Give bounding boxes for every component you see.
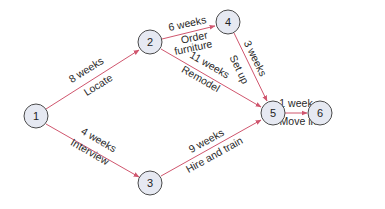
node-2-label: 2 [147,36,153,48]
node-5: 5 [261,101,285,125]
node-3: 3 [138,171,162,195]
node-2: 2 [138,30,162,54]
node-1-label: 1 [33,110,39,122]
network-diagram: 8 weeks Locate 4 weeks Interview 6 weeks… [0,0,385,209]
node-6: 6 [308,101,332,125]
node-6-label: 6 [317,107,323,119]
edge-5-6-duration: 1 week [279,97,313,109]
node-4-label: 4 [225,16,231,28]
node-5-label: 5 [270,107,276,119]
edge-3-5 [161,120,261,176]
edge-labels: 8 weeks Locate 4 weeks Interview 6 weeks… [66,13,316,175]
node-4: 4 [216,10,240,34]
node-3-label: 3 [147,177,153,189]
node-1: 1 [24,104,48,128]
